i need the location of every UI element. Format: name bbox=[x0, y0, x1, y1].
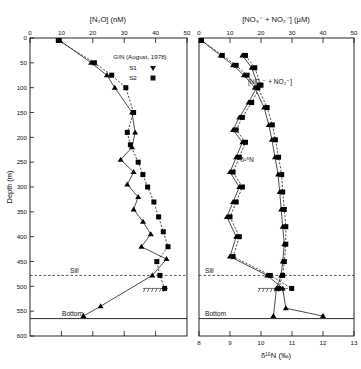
right-top-tick-40: 40 bbox=[320, 29, 327, 36]
d15n-curve-label: δ¹⁵N bbox=[240, 156, 254, 163]
depth-axis-ticklabels: 0 50 100 150 200 250 300 350 400 450 500… bbox=[17, 34, 28, 339]
depth-tick-100: 100 bbox=[17, 84, 28, 91]
legend-label-s1: S1 bbox=[129, 64, 137, 71]
left-top-tick-20: 20 bbox=[89, 29, 96, 36]
right-bottom-tick-11: 11 bbox=[289, 339, 296, 346]
legend: GIN (August, 1978) S1 S2 bbox=[113, 53, 166, 81]
left-top-axis-ticklabels: 0 10 20 30 40 50 bbox=[28, 29, 191, 36]
depth-tick-600: 600 bbox=[17, 332, 28, 339]
right-sill-label: Sill bbox=[205, 267, 214, 274]
left-bottom-label: Bottom bbox=[62, 310, 83, 317]
right-top-tick-10: 10 bbox=[227, 29, 234, 36]
right-top-tick-30: 30 bbox=[289, 29, 296, 36]
left-top-axis-ticks bbox=[30, 38, 187, 43]
left-top-tick-0: 0 bbox=[28, 29, 32, 36]
right-top-axis-ticklabels: 0 10 20 30 40 50 bbox=[197, 29, 358, 36]
depth-tick-0: 0 bbox=[24, 34, 28, 41]
right-top-tick-20: 20 bbox=[258, 29, 265, 36]
depth-tick-300: 300 bbox=[17, 183, 28, 190]
legend-square-icon bbox=[151, 76, 156, 81]
right-bottom-axis-ticks bbox=[199, 331, 354, 336]
right-bottom-tick-10: 10 bbox=[258, 339, 265, 346]
right-d15n-s2-line bbox=[230, 55, 292, 288]
left-top-tick-30: 30 bbox=[121, 29, 128, 36]
right-top-tick-50: 50 bbox=[351, 29, 358, 36]
right-d15n-s2-markers bbox=[228, 53, 295, 291]
depth-tick-250: 250 bbox=[17, 158, 28, 165]
right-top-tick-0: 0 bbox=[197, 29, 201, 36]
depth-tick-550: 550 bbox=[17, 307, 28, 314]
left-top-tick-40: 40 bbox=[152, 29, 159, 36]
right-top-axis-ticks bbox=[199, 38, 354, 43]
left-bottom-axis-ticks bbox=[61, 331, 155, 336]
figure-container: 0 10 20 30 40 50 [N₂O] (nM) bbox=[0, 0, 361, 369]
depth-tick-450: 450 bbox=[17, 258, 28, 265]
left-plot-frame bbox=[30, 38, 187, 336]
right-bottom-tick-8: 8 bbox=[197, 339, 201, 346]
left-top-tick-50: 50 bbox=[184, 29, 191, 36]
right-bottom-tick-9: 9 bbox=[228, 339, 232, 346]
legend-triangle-icon bbox=[150, 66, 156, 71]
depth-axis-ticks bbox=[30, 38, 34, 336]
depth-tick-200: 200 bbox=[17, 134, 28, 141]
depth-tick-350: 350 bbox=[17, 208, 28, 215]
right-bottom-axis-title: δ¹⁵N (‰) bbox=[261, 351, 292, 360]
left-sill-label: Sill bbox=[70, 267, 79, 274]
depth-tick-500: 500 bbox=[17, 283, 28, 290]
depth-tick-400: 400 bbox=[17, 233, 28, 240]
right-bottom-tick-12: 12 bbox=[320, 339, 327, 346]
depth-tick-150: 150 bbox=[17, 109, 28, 116]
right-bottom-label: Bottom bbox=[205, 310, 226, 317]
left-axis-title: [N₂O] (nM) bbox=[90, 15, 127, 24]
depth-profile-figure: 0 10 20 30 40 50 [N₂O] (nM) bbox=[0, 0, 361, 369]
depth-axis-title: Depth (m) bbox=[5, 171, 14, 204]
right-bottom-axis-ticklabels: 8 9 10 11 12 13 bbox=[197, 339, 358, 346]
right-d15n-s1-markers bbox=[224, 52, 326, 318]
depth-tick-50: 50 bbox=[20, 59, 27, 66]
left-panel: 0 10 20 30 40 50 [N₂O] (nM) bbox=[5, 15, 191, 339]
right-panel: 0 10 20 30 40 50 [NO₃⁻ + NO₂⁻] (μM) 8 9 … bbox=[197, 15, 358, 360]
right-axis-title: [NO₃⁻ + NO₂⁻] (μM) bbox=[242, 15, 310, 24]
legend-title: GIN (August, 1978) bbox=[113, 53, 166, 60]
left-series-s1-line bbox=[60, 41, 167, 317]
left-top-tick-10: 10 bbox=[58, 29, 65, 36]
legend-label-s2: S2 bbox=[129, 74, 137, 81]
right-bottom-tick-13: 13 bbox=[351, 339, 358, 346]
nitrate-curve-label: [NO₃⁻ + NO₂⁻] bbox=[248, 78, 292, 86]
